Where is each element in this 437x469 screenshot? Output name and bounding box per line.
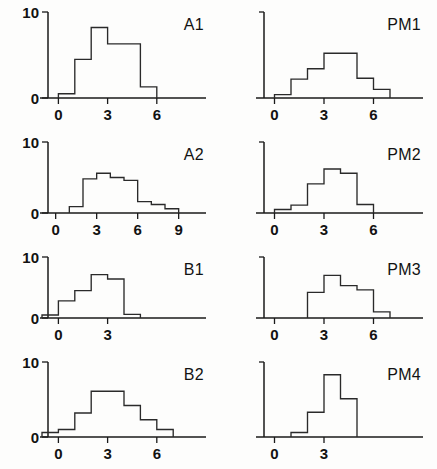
y-tick-label-10: 10 bbox=[22, 354, 39, 371]
panel-title-a1: A1 bbox=[184, 16, 204, 33]
x-tick-label-3: 3 bbox=[103, 445, 111, 462]
panel-title-a2: A2 bbox=[184, 146, 204, 163]
x-tick-label-0: 0 bbox=[54, 445, 62, 462]
histogram-outline bbox=[58, 27, 156, 98]
y-tick-label-0: 0 bbox=[31, 90, 39, 107]
x-tick-label-0: 0 bbox=[270, 221, 278, 238]
panel-title-b1: B1 bbox=[184, 261, 204, 278]
histogram-outline bbox=[291, 375, 357, 437]
histogram-panel-pm2: 036PM2 bbox=[220, 130, 437, 245]
x-tick-label-3: 3 bbox=[92, 221, 100, 238]
x-tick-label-6: 6 bbox=[369, 221, 377, 238]
x-tick-label-0: 0 bbox=[270, 445, 278, 462]
histogram-panel-pm4: 03PM4 bbox=[220, 350, 437, 469]
x-tick-label-0: 0 bbox=[51, 221, 59, 238]
x-tick-label-6: 6 bbox=[369, 106, 377, 123]
y-tick-label-0: 0 bbox=[31, 205, 39, 222]
y-tick-label-10: 10 bbox=[22, 134, 39, 151]
y-tick-label-0: 0 bbox=[31, 429, 39, 446]
panel-title-pm3: PM3 bbox=[387, 261, 421, 278]
histogram-outline bbox=[275, 169, 374, 213]
panel-title-pm4: PM4 bbox=[387, 366, 421, 383]
histogram-panel-pm1: 036PM1 bbox=[220, 0, 437, 130]
histogram-panel-b2: 010036B2 bbox=[0, 350, 220, 469]
histogram-panel-a1: 010036A1 bbox=[0, 0, 220, 130]
x-tick-label-3: 3 bbox=[320, 326, 328, 343]
histogram-figure-grid: 010036A1036PM10100369A2036PM201003B1036P… bbox=[0, 0, 437, 469]
x-tick-label-6: 6 bbox=[369, 326, 377, 343]
y-tick-label-10: 10 bbox=[22, 249, 39, 266]
x-tick-label-6: 6 bbox=[153, 445, 161, 462]
histogram-outline bbox=[308, 275, 391, 318]
x-tick-label-6: 6 bbox=[133, 221, 141, 238]
x-tick-label-3: 3 bbox=[320, 445, 328, 462]
x-tick-label-0: 0 bbox=[270, 326, 278, 343]
x-tick-label-6: 6 bbox=[153, 106, 161, 123]
x-tick-label-0: 0 bbox=[54, 106, 62, 123]
histogram-outline bbox=[69, 173, 178, 213]
histogram-panel-a2: 0100369A2 bbox=[0, 130, 220, 245]
x-tick-label-3: 3 bbox=[103, 326, 111, 343]
y-tick-label-0: 0 bbox=[31, 310, 39, 327]
x-tick-label-3: 3 bbox=[320, 221, 328, 238]
panel-title-b2: B2 bbox=[184, 366, 204, 383]
x-tick-label-3: 3 bbox=[103, 106, 111, 123]
x-tick-label-9: 9 bbox=[174, 221, 182, 238]
histogram-panel-b1: 01003B1 bbox=[0, 245, 220, 350]
histogram-outline bbox=[42, 391, 173, 437]
panel-title-pm2: PM2 bbox=[387, 146, 421, 163]
x-tick-label-0: 0 bbox=[54, 326, 62, 343]
x-tick-label-3: 3 bbox=[320, 106, 328, 123]
panel-title-pm1: PM1 bbox=[387, 16, 421, 33]
histogram-outline bbox=[42, 275, 140, 318]
y-tick-label-10: 10 bbox=[22, 4, 39, 21]
histogram-panel-pm3: 036PM3 bbox=[220, 245, 437, 350]
x-tick-label-0: 0 bbox=[270, 106, 278, 123]
histogram-outline bbox=[275, 53, 391, 98]
